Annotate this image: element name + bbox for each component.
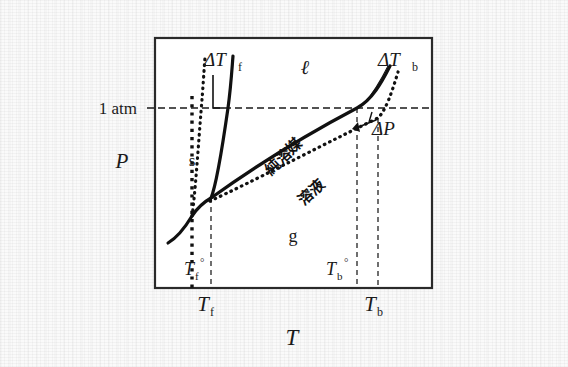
- delta-tf-subscript: f: [238, 60, 242, 74]
- tf-zero-sub: f: [195, 270, 199, 282]
- annotation-delta-p: ΔP: [371, 118, 395, 139]
- phase-diagram-figure: 1 atm P T s ℓ g 純溶媒 溶液 ΔT f ΔT b ΔP T f …: [0, 0, 568, 367]
- region-label-solid: s: [189, 151, 196, 170]
- delta-tb-label: ΔT: [377, 49, 401, 70]
- y-axis-label: P: [115, 149, 129, 173]
- delta-tb-subscript: b: [412, 60, 418, 74]
- region-label-gas: g: [289, 226, 298, 246]
- one-atm-label: 1 atm: [99, 99, 137, 118]
- tick-label-tf: T f: [197, 292, 214, 319]
- tf-zero-sup: °: [200, 256, 204, 268]
- tb-zero-sup: °: [344, 256, 348, 268]
- tb-zero-sub: b: [337, 270, 343, 282]
- tick-label-tb: T b: [364, 292, 383, 319]
- tf-base: T: [197, 292, 210, 316]
- tb-sub: b: [377, 305, 383, 319]
- tb-base: T: [364, 292, 377, 316]
- tf-sub: f: [210, 305, 214, 319]
- delta-tf-label: ΔT: [203, 49, 227, 70]
- x-axis-label: T: [286, 325, 301, 350]
- region-label-liquid: ℓ: [301, 56, 310, 78]
